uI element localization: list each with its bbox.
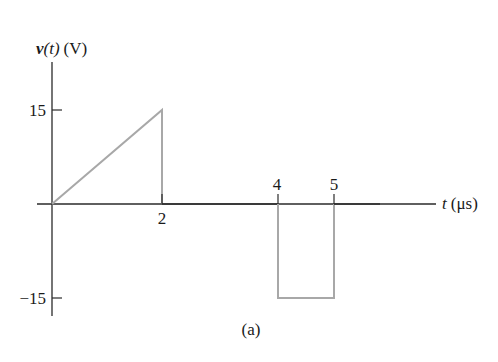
y-tick-label-minus-15: −15 — [19, 289, 46, 308]
waveform-diagram: v(t)(V) 15 −15 2 4 5 t(μs) (a) — [0, 0, 498, 362]
signal-negative-pulse — [278, 204, 334, 298]
y-tick-label-15: 15 — [29, 101, 46, 120]
figure-caption: (a) — [242, 320, 261, 339]
signal-ramp — [52, 110, 162, 204]
y-axis-label: v(t)(V) — [36, 39, 87, 58]
x-tick-label-2: 2 — [158, 209, 167, 228]
x-tick-label-4: 4 — [273, 175, 282, 194]
x-tick-label-5: 5 — [330, 175, 339, 194]
x-axis-label: t(μs) — [442, 194, 478, 213]
